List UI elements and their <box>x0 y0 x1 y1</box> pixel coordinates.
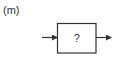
block-text: ? <box>74 32 80 44</box>
block-diagram: ? <box>0 0 130 68</box>
